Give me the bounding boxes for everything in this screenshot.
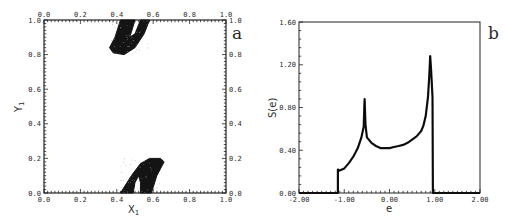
panel-b-spectrum-plot: -2.00-1.000.001.002.000.000.400.801.201.… [267,19,499,215]
panel-a-ylabel: Y1 [13,101,26,113]
panel-a-speckle [144,161,145,162]
panel-a-speckle [132,180,133,181]
panel-a-speckle [151,170,152,171]
panel-a-speckle [155,188,156,189]
panel-a-speckle [126,35,127,36]
panel-a-speckle [147,48,148,49]
panel-a-speckle [139,32,140,33]
panel-a-speckle [130,164,131,165]
panel-a-speckle [115,27,116,28]
panel-b-ylabel: S(e) [267,98,278,118]
panel-b-xlabel: e [386,203,392,214]
panel-a-speckle [127,191,128,192]
panel-b-xtick-label: 1.00 [426,196,443,204]
panel-a-right-tick-label: 0.6 [229,86,242,94]
panel-a-speckle [136,49,137,50]
panel-a-speckle [111,40,112,41]
panel-a-speckle [134,180,135,181]
panel-a-speckle [140,162,141,163]
panel-a-speckle [127,37,128,38]
panel-b-xtick-label: -1.00 [334,196,355,204]
panel-a-speckle [129,46,130,47]
panel-a-speckle [141,178,142,179]
panel-a-speckle [112,24,113,25]
panel-a-speckle [112,22,113,23]
panel-a-speckle [142,191,143,192]
panel-a-speckle [132,176,133,177]
panel-a-ytick-label: 0.8 [28,51,41,59]
panel-a-speckle [128,46,129,47]
panel-a-speckle [114,46,115,47]
panel-a-ytick-label: 0.2 [28,155,41,163]
panel-a-speckle [147,43,148,44]
panel-a-speckle [131,43,132,44]
panel-a-top-tick-label: 0.4 [110,11,123,19]
panel-a-speckle [127,25,128,26]
panel-a-speckle [139,179,140,180]
panel-a-right-tick-label: 0.8 [229,51,242,59]
panel-a-speckle [116,20,117,21]
panel-a-speckle [147,21,148,22]
panel-a-speckle [127,39,128,40]
panel-a-speckle [157,188,158,189]
panel-a-speckle [159,183,160,184]
panel-a-speckle [116,52,117,53]
panel-a-speckle [129,35,130,36]
panel-a-speckle [120,46,121,47]
panel-a-xtick-label: 0.2 [74,196,87,204]
panel-a-speckle [121,172,122,173]
panel-a-speckle [115,46,116,47]
panel-a-xtick-label: 0.4 [110,196,123,204]
panel-b-xtick-label: 2.00 [472,196,489,204]
panel-b-frame [299,22,480,193]
panel-a-xlabel: X1 [128,204,139,217]
panel-a-speckle [119,24,120,25]
panel-a-speckle [130,182,131,183]
panel-b-ytick-label: 0.80 [279,104,296,112]
panel-a-speckle [146,176,147,177]
panel-a-speckle [143,21,144,22]
panel-a-speckle [128,182,129,183]
panel-a-speckle [146,24,147,25]
panel-a-speckle [124,192,125,193]
panel-a-xtick-label: 0.6 [147,196,160,204]
panel-a-ytick-label: 1.0 [28,17,41,25]
panel-a-speckle [138,189,139,190]
panel-a-speckle [143,164,144,165]
panel-b-ytick-label: 1.20 [279,61,296,69]
panel-a-speckle [121,187,122,188]
panel-a-speckle [139,50,140,51]
panel-a-speckle [120,28,121,29]
panel-a-speckle [135,52,136,53]
panel-a-xtick-label: 0.8 [183,196,196,204]
panel-b-ytick-label: 0.40 [279,147,296,155]
panel-a-speckle [132,37,133,38]
panel-b-ytick-label: 1.60 [279,19,296,27]
panel-a-speckle [125,165,126,166]
panel-b-letter: b [488,23,499,43]
panel-a-ytick-label: 0.0 [28,190,41,198]
panel-a-top-tick-label: 0.2 [74,11,87,19]
panel-a-speckle [127,46,128,47]
panel-a-speckle [120,180,121,181]
panel-a-letter: a [232,23,242,43]
panel-a-top-tick-label: 0.6 [147,11,160,19]
figure: 0.00.20.40.60.81.00.00.20.40.60.81.00.00… [0,0,507,222]
panel-a-speckle [132,159,133,160]
panel-a-speckle [124,158,125,159]
panel-a-speckle [146,177,147,178]
panel-a-phase-plot: 0.00.20.40.60.81.00.00.20.40.60.81.00.00… [13,11,242,217]
panel-a-right-tick-label: 0.2 [229,155,242,163]
panel-a-speckle [150,167,151,168]
panel-a-speckle [123,180,124,181]
panel-a-speckle [120,166,121,167]
panel-a-speckle [123,162,124,163]
panel-a-ytick-label: 0.6 [28,86,41,94]
panel-a-top-tick-label: 0.8 [183,11,196,19]
panel-a-speckle [149,162,150,163]
panel-a-right-tick-label: 0.4 [229,120,242,128]
panel-a-speckle [144,192,145,193]
panel-a-speckle [151,168,152,169]
panel-a-speckle [147,190,148,191]
panel-a-speckle [127,51,128,52]
